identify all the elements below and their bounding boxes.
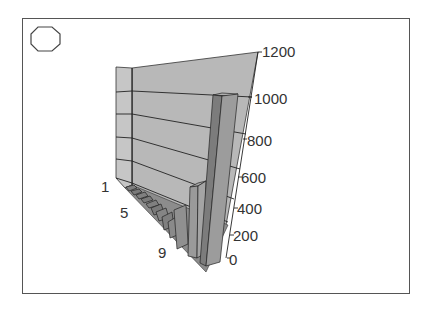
y-tick-800: 800 — [247, 132, 272, 149]
side-wall — [116, 67, 132, 188]
y-tick-200: 200 — [233, 227, 258, 244]
x-tick-5: 5 — [120, 204, 128, 221]
octagon-shape-icon[interactable] — [31, 27, 60, 51]
bar-11-front — [188, 186, 198, 258]
y-tick-1200: 1200 — [262, 43, 295, 60]
y-tick-400: 400 — [237, 200, 262, 217]
chart-svg: 1200 1000 800 600 400 200 0 1 5 9 — [0, 0, 431, 310]
y-tick-600: 600 — [241, 169, 266, 186]
y-tick-1000: 1000 — [254, 90, 287, 107]
x-tick-1: 1 — [101, 178, 109, 195]
bar-10 — [174, 205, 188, 249]
x-tick-9: 9 — [158, 244, 166, 261]
y-tick-0: 0 — [229, 251, 237, 268]
